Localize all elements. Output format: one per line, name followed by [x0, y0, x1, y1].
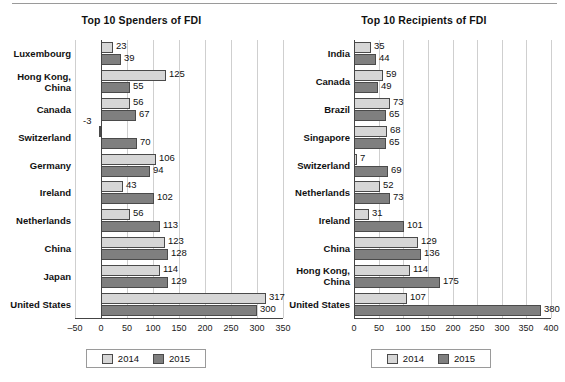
- bar-2014-netherlands: [354, 181, 380, 192]
- bar-2014-canada: [101, 98, 130, 109]
- bar-value-label: 39: [124, 52, 135, 63]
- bar-2015-china: [101, 249, 168, 260]
- legend-label-2014: 2014: [118, 353, 139, 364]
- gridline: [75, 40, 76, 318]
- bar-value-label: 123: [168, 235, 184, 246]
- plot-area-spenders: 2339125555667-37010694431025611312312811…: [75, 40, 283, 318]
- value-axis-line: [354, 40, 355, 318]
- bar-2015-canada: [101, 110, 136, 121]
- category-label: Netherlands: [0, 215, 71, 226]
- bar-2015-ireland: [354, 221, 404, 232]
- gridline: [526, 40, 527, 318]
- bar-2015-united-states: [354, 305, 541, 316]
- category-label: United States: [0, 299, 71, 310]
- gridline: [477, 40, 478, 318]
- legend-swatch-2014-icon: [387, 354, 398, 364]
- legend-label-2015: 2015: [454, 353, 475, 364]
- bar-2014-ireland: [101, 181, 123, 192]
- legend-swatch-2015-icon: [153, 354, 164, 364]
- category-label: Switzerland: [283, 160, 350, 171]
- bar-2015-china: [354, 249, 421, 260]
- bar-value-label: 129: [421, 235, 437, 246]
- bar-2014-india: [354, 42, 371, 53]
- legend-recipients: 2014 2015: [371, 349, 491, 368]
- legend-swatch-2015-icon: [438, 354, 449, 364]
- bar-value-label: 114: [163, 263, 178, 274]
- bar-value-label: 56: [133, 96, 144, 107]
- category-label: Luxembourg: [0, 48, 71, 59]
- bar-value-label: 35: [374, 40, 385, 51]
- bar-2014-united-states: [101, 293, 266, 304]
- bar-2014-singapore: [354, 126, 387, 137]
- x-axis-baseline: [75, 318, 283, 319]
- bar-value-label: 73: [393, 191, 404, 202]
- gridline: [231, 40, 232, 318]
- bar-2014-china: [354, 237, 418, 248]
- bar-2015-switzerland: [354, 166, 388, 177]
- bar-2015-united-states: [101, 305, 257, 316]
- legend-label-2014: 2014: [403, 353, 424, 364]
- bar-value-label: 136: [424, 247, 440, 258]
- bar-2014-japan: [101, 265, 160, 276]
- legend-label-2015: 2015: [169, 353, 190, 364]
- chart-title-spenders: Top 10 Spenders of FDI: [0, 14, 283, 26]
- bar-value-label: 43: [126, 179, 137, 190]
- legend-item-2015: 2015: [153, 353, 190, 364]
- gridline: [502, 40, 503, 318]
- legend-swatch-2014-icon: [102, 354, 113, 364]
- bar-value-label: -3: [83, 115, 91, 126]
- figure-root: Top 10 Spenders of FDI 2339125555667-370…: [0, 0, 565, 382]
- bar-2015-switzerland: [101, 138, 137, 149]
- bar-value-label: 59: [386, 68, 397, 79]
- category-label: Brazil: [283, 104, 350, 115]
- bar-2015-hong-kong-china: [101, 82, 130, 93]
- bar-value-label: 7: [360, 152, 365, 163]
- bar-value-label: 129: [171, 275, 187, 286]
- bar-2014-brazil: [354, 98, 390, 109]
- bar-2015-hong-kong-china: [354, 277, 440, 288]
- bar-value-label: 49: [381, 80, 392, 91]
- bar-2015-india: [354, 54, 376, 65]
- gridline: [205, 40, 206, 318]
- bar-value-label: 114: [413, 263, 428, 274]
- bar-2014-united-states: [354, 293, 407, 304]
- category-label: Netherlands: [283, 187, 350, 198]
- bar-value-label: 380: [544, 303, 560, 314]
- bar-value-label: 101: [407, 219, 423, 230]
- bar-value-label: 44: [379, 52, 390, 63]
- category-label: Ireland: [283, 215, 350, 226]
- bar-value-label: 70: [140, 136, 151, 147]
- x-axis-baseline: [354, 318, 551, 319]
- bar-2014-canada: [354, 70, 383, 81]
- bar-value-label: 113: [163, 219, 178, 230]
- bar-2015-canada: [354, 82, 378, 93]
- category-label: China: [0, 243, 71, 254]
- bar-2015-germany: [101, 166, 150, 177]
- chart-title-recipients: Top 10 Recipients of FDI: [283, 14, 565, 26]
- bar-2015-ireland: [101, 193, 154, 204]
- bar-value-label: 107: [410, 291, 426, 302]
- bar-value-label: 94: [153, 164, 164, 175]
- category-label: India: [283, 48, 350, 59]
- bar-2015-japan: [101, 277, 168, 288]
- bar-value-label: 31: [372, 207, 383, 218]
- bar-value-label: 125: [169, 68, 185, 79]
- bar-value-label: 56: [133, 207, 144, 218]
- bar-value-label: 175: [443, 275, 459, 286]
- bar-2014-hong-kong-china: [354, 265, 410, 276]
- category-label: Germany: [0, 160, 71, 171]
- category-label: China: [283, 243, 350, 254]
- bar-2015-singapore: [354, 138, 386, 149]
- category-label: Hong Kong, China: [0, 71, 71, 93]
- bar-2015-luxembourg: [101, 54, 121, 65]
- legend-item-2015: 2015: [438, 353, 475, 364]
- bar-value-label: 102: [157, 191, 173, 202]
- chart-panel-spenders: Top 10 Spenders of FDI 2339125555667-370…: [0, 0, 283, 382]
- bar-2014-ireland: [354, 209, 369, 220]
- category-label: Switzerland: [0, 132, 71, 143]
- gridline: [551, 40, 552, 318]
- category-label: Ireland: [0, 187, 71, 198]
- category-label: Hong Kong, China: [283, 265, 350, 287]
- plot-area-recipients: 3544594973656865769527331101129136114175…: [354, 40, 551, 318]
- bar-value-label: 65: [389, 136, 400, 147]
